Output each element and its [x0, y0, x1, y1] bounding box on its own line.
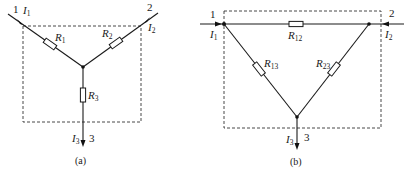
- current-i2-label-a: I2: [147, 21, 156, 35]
- terminal-3-label-b: 3: [304, 131, 310, 143]
- arrow-i1-icon: [17, 19, 23, 25]
- current-i3-label-b: I3: [285, 133, 294, 147]
- node-1-b: [222, 22, 226, 26]
- center-node-a: [81, 65, 85, 69]
- node-3-b: [295, 115, 299, 119]
- arrow-i3-icon: [81, 140, 86, 147]
- terminal-1-label-a: 1: [13, 3, 19, 15]
- arrow-i3-b-icon: [295, 143, 300, 150]
- resistor-r23-label: R23: [315, 57, 330, 71]
- resistor-r3: [80, 88, 85, 102]
- resistor-r2-label: R2: [101, 27, 113, 41]
- terminal-1-label-b: 1: [210, 8, 216, 20]
- dashed-boundary-a: [23, 26, 141, 122]
- resistor-r13-label: R13: [263, 57, 278, 71]
- circuit-figure: 1 I1 2 I2 R1 R2 R3 I3 3 (a): [0, 0, 404, 174]
- arrow-i1-b-icon: [215, 22, 222, 27]
- caption-a: (a): [75, 155, 86, 167]
- current-i1-label-a: I1: [22, 4, 31, 18]
- node-2-b: [367, 22, 371, 26]
- diagram-a-star: 1 I1 2 I2 R1 R2 R3 I3 3 (a): [8, 1, 158, 167]
- diagram-b-delta: 1 I1 2 I2 R12 R13 R23 I3 3 (b): [200, 7, 404, 168]
- terminal-2-label-a: 2: [147, 1, 153, 13]
- arrow-i2-b-icon: [382, 22, 389, 27]
- resistor-r3-label: R3: [87, 89, 99, 103]
- current-i1-label-b: I1: [209, 28, 218, 42]
- resistor-r12-label: R12: [287, 29, 302, 43]
- resistor-r12: [289, 21, 303, 26]
- resistor-r1-label: R1: [54, 31, 66, 45]
- terminal-2-label-b: 2: [389, 7, 395, 19]
- current-i3-label-a: I3: [71, 132, 80, 146]
- caption-b: (b): [290, 156, 302, 168]
- terminal-3-label-a: 3: [89, 132, 95, 144]
- current-i2-label-b: I2: [384, 28, 393, 42]
